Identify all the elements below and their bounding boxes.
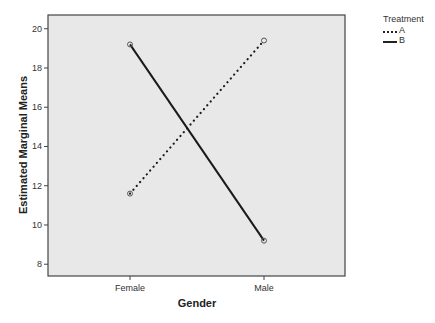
x-axis: FemaleMale <box>115 276 274 293</box>
y-tick-label: 8 <box>37 259 42 269</box>
y-axis: 8101214161820 <box>32 24 48 269</box>
legend-label-a: A <box>399 25 405 35</box>
legend-label-b: B <box>399 35 405 45</box>
y-tick-label: 14 <box>32 141 42 151</box>
y-axis-title: Estimated Marginal Means <box>17 76 29 214</box>
x-tick-label: Female <box>115 283 145 293</box>
chart-canvas: 8101214161820 FemaleMale Estimated Margi… <box>0 0 435 323</box>
plot-area <box>48 15 345 276</box>
dotted-line-icon <box>383 27 397 33</box>
y-tick-label: 16 <box>32 102 42 112</box>
legend-title: Treatment <box>383 14 424 24</box>
x-axis-title: Gender <box>178 297 217 309</box>
solid-line-icon <box>383 37 397 43</box>
y-tick-label: 20 <box>32 24 42 34</box>
x-tick-label: Male <box>254 283 274 293</box>
legend-item-b: B <box>383 35 424 45</box>
y-tick-label: 12 <box>32 181 42 191</box>
legend: Treatment A B <box>383 14 424 45</box>
legend-item-a: A <box>383 25 424 35</box>
y-tick-label: 18 <box>32 63 42 73</box>
y-tick-label: 10 <box>32 220 42 230</box>
